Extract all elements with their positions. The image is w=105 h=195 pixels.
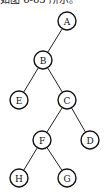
node-label: A [63, 17, 71, 27]
tree-nodes: ABECFDHG [10, 12, 99, 187]
node-label: D [86, 136, 93, 146]
tree-node-F: F [33, 131, 51, 149]
edge-B-C [48, 68, 63, 93]
tree-node-E: E [10, 91, 28, 109]
edge-A-B [48, 29, 63, 53]
edge-C-F [47, 108, 62, 133]
edge-C-D [71, 108, 85, 132]
tree-node-C: C [58, 91, 76, 109]
edge-F-G [47, 148, 62, 171]
node-label: E [16, 96, 23, 106]
node-label: C [64, 96, 71, 106]
node-label: B [40, 56, 47, 66]
tree-node-G: G [58, 169, 76, 187]
node-label: H [15, 174, 23, 184]
node-label: G [63, 174, 70, 184]
tree-node-H: H [10, 169, 28, 187]
tree-node-D: D [81, 131, 99, 149]
tree-node-A: A [58, 12, 76, 30]
binary-tree-diagram: ABECFDHG [0, 0, 105, 195]
edge-F-H [24, 148, 38, 171]
node-label: F [39, 136, 45, 146]
edge-B-E [24, 68, 39, 93]
tree-node-B: B [34, 51, 52, 69]
